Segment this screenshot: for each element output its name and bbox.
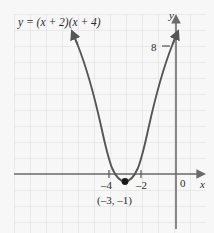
x-axis-label: x <box>200 179 205 190</box>
vertex-point <box>122 178 129 185</box>
vertex-coordinate-label: (–3, –1) <box>97 195 132 206</box>
x-tick-label-neg4: –4 <box>101 180 112 191</box>
y-axis-label: y <box>169 10 174 21</box>
graph-figure: y = (x + 2)(x + 4) y x 8 0 –4 –2 (–3, –1… <box>0 0 214 233</box>
equation-text: y = (x + 2)(x + 4) <box>18 16 101 28</box>
origin-label: 0 <box>180 178 186 189</box>
x-tick-label-neg2: –2 <box>136 180 147 191</box>
y-tick-label-8: 8 <box>151 42 157 53</box>
equation-label: y = (x + 2)(x + 4) <box>18 17 101 29</box>
